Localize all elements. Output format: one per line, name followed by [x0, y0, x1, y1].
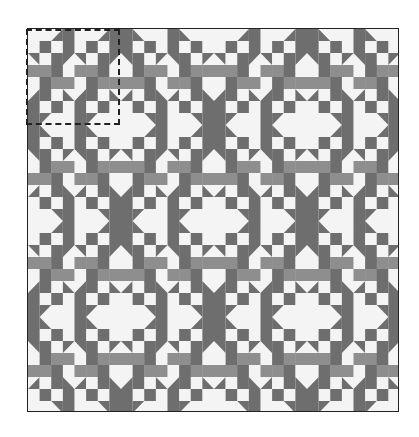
quilt-pattern-svg [28, 29, 399, 412]
quilt-diagram [27, 28, 399, 412]
